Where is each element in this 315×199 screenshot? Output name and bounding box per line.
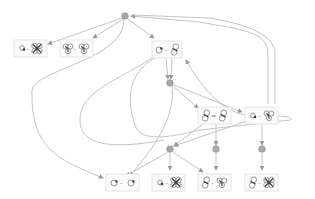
edge <box>80 56 164 145</box>
edge <box>128 19 154 38</box>
junction-node[interactable] <box>122 13 129 20</box>
svg-text:-: - <box>259 112 261 119</box>
svg-text:=: = <box>211 112 216 119</box>
edge <box>126 152 168 176</box>
species-nodes: - - - = - <box>14 40 278 191</box>
edge <box>171 57 172 79</box>
species-node[interactable]: - <box>14 40 47 57</box>
svg-text:-: - <box>74 45 76 52</box>
edge <box>93 19 123 38</box>
species-node[interactable]: - <box>245 174 278 191</box>
svg-text:-: - <box>120 179 122 186</box>
junction-node[interactable] <box>167 146 174 153</box>
svg-text:-: - <box>165 46 167 53</box>
svg-text:-: - <box>27 45 29 52</box>
species-node[interactable]: - <box>198 174 231 191</box>
edge <box>166 57 168 79</box>
svg-text:-: - <box>259 179 261 186</box>
junction-node[interactable] <box>213 146 220 153</box>
species-node[interactable]: - <box>106 174 139 191</box>
edges <box>32 15 291 178</box>
edge <box>173 152 203 172</box>
edge <box>130 55 291 146</box>
junction-node[interactable] <box>259 146 266 153</box>
edge <box>130 85 172 176</box>
species-node[interactable]: - <box>245 107 278 124</box>
svg-text:-: - <box>166 179 168 186</box>
reaction-network-diagram: - - - = - <box>0 0 315 199</box>
svg-text:-: - <box>212 179 214 186</box>
edge <box>132 15 275 104</box>
junction-node[interactable] <box>167 80 174 87</box>
species-node[interactable]: - <box>60 40 93 57</box>
species-node[interactable]: - <box>152 41 182 58</box>
species-node[interactable]: = <box>198 107 231 124</box>
species-node[interactable]: - <box>152 174 185 191</box>
